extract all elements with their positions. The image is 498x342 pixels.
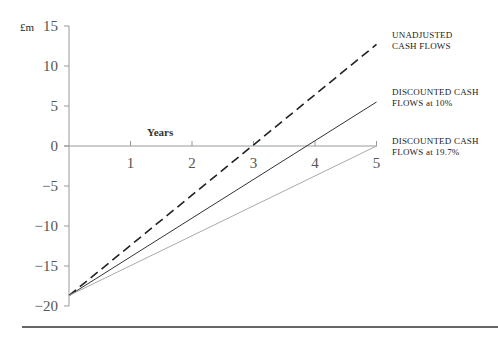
legend-disc197-line1: DISCOUNTED CASH xyxy=(392,136,479,146)
series-line xyxy=(69,102,377,296)
y-unit-label: £m xyxy=(20,21,35,33)
series-lines xyxy=(69,44,377,295)
legend-unadjusted-line1: UNADJUSTED xyxy=(392,30,453,40)
x-tick-label: 1 xyxy=(127,155,135,171)
y-tick-label: 15 xyxy=(43,18,58,34)
legend-unadjusted-line2: CASH FLOWS xyxy=(392,41,451,51)
x-axis-label: Years xyxy=(147,126,174,138)
legend-disc10-line1: DISCOUNTED CASH xyxy=(392,87,479,97)
y-tick-label: −20 xyxy=(35,298,58,314)
y-tick-label: −10 xyxy=(35,218,58,234)
y-ticks: 151050−5−10−15−20 xyxy=(35,18,69,314)
x-tick-label: 2 xyxy=(188,155,196,171)
y-tick-label: −15 xyxy=(35,258,58,274)
y-tick-label: 5 xyxy=(51,98,59,114)
series-line xyxy=(69,44,377,295)
x-tick-label: 3 xyxy=(250,155,258,171)
chart-canvas: 151050−5−10−15−20 12345 £m Years UNADJUS… xyxy=(0,0,498,342)
y-tick-label: 10 xyxy=(43,58,58,74)
series-line xyxy=(69,146,377,296)
y-tick-label: 0 xyxy=(51,138,59,154)
y-tick-label: −5 xyxy=(42,178,58,194)
x-tick-label: 5 xyxy=(373,155,381,171)
legend-disc197-line2: FLOWS at 19.7% xyxy=(392,147,460,157)
legend-disc10-line2: FLOWS at 10% xyxy=(392,98,453,108)
x-tick-label: 4 xyxy=(311,155,319,171)
